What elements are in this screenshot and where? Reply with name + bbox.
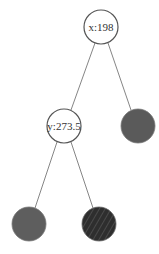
- tree-leaf-left-right: [82, 207, 116, 241]
- tree-node-root: x:198: [84, 10, 118, 44]
- node-label-root: x:198: [88, 21, 114, 33]
- node-label-left: y:273.5: [47, 120, 81, 132]
- edge-left-leftleft: [35, 142, 57, 208]
- edge-root-right: [108, 43, 131, 110]
- tree-diagram: x:198 y:273.5: [0, 0, 159, 254]
- tree-node-left: y:273.5: [47, 109, 81, 143]
- edge-root-left: [71, 43, 95, 110]
- tree-leaf-right: [121, 109, 155, 143]
- tree-leaf-left-left: [12, 207, 46, 241]
- edge-left-leftright: [71, 142, 93, 208]
